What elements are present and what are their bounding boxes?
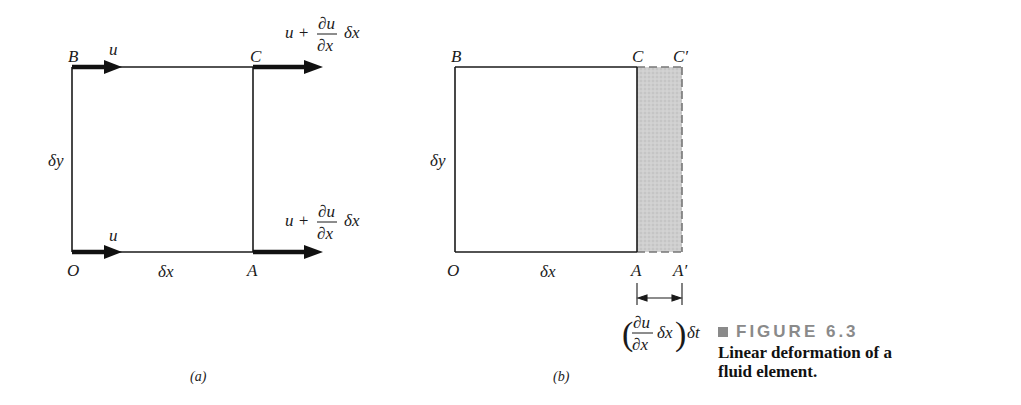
velocity-label-o: u bbox=[109, 226, 118, 245]
velocity-label-c: u + ∂u ∂x δx bbox=[285, 14, 360, 55]
panel-b: B C C′ O A A′ δx δy ( ∂u ∂x δx ) δt (b) bbox=[430, 47, 701, 385]
svg-text:∂u: ∂u bbox=[633, 313, 650, 332]
svg-text:δx: δx bbox=[344, 211, 360, 230]
panel-b-sublabel: (b) bbox=[553, 369, 570, 385]
velocity-arrow-a bbox=[253, 245, 323, 259]
velocity-label-a: u + ∂u ∂x δx bbox=[285, 202, 360, 243]
corner-label-a-prime: A′ bbox=[672, 261, 687, 280]
svg-text:δt: δt bbox=[687, 323, 701, 342]
dy-label-a: δy bbox=[48, 151, 64, 170]
figure-number: FIGURE 6.3 bbox=[736, 323, 859, 341]
corner-label-c: C bbox=[250, 47, 262, 66]
dy-label-b: δy bbox=[430, 151, 446, 170]
velocity-arrow-o bbox=[72, 245, 122, 259]
svg-text:δx: δx bbox=[344, 23, 360, 42]
fluid-element-box-a bbox=[72, 67, 253, 252]
velocity-label-b: u bbox=[109, 40, 118, 59]
deformation-shaded-region bbox=[637, 67, 682, 252]
corner-label-o-panel-b: O bbox=[447, 261, 459, 280]
stretch-label: ( ∂u ∂x δx ) δt bbox=[622, 313, 701, 354]
velocity-arrow-c bbox=[253, 60, 323, 74]
svg-text:u +: u + bbox=[285, 23, 309, 42]
velocity-arrow-b bbox=[72, 60, 122, 74]
corner-label-c-prime: C′ bbox=[673, 47, 688, 66]
svg-text:∂x: ∂x bbox=[317, 36, 333, 55]
svg-text:u +: u + bbox=[285, 211, 309, 230]
fluid-element-box-b bbox=[455, 67, 637, 252]
svg-text:∂u: ∂u bbox=[318, 202, 335, 221]
panel-a: B C O A δx δy u u u + ∂u ∂x δx u + ∂u ∂x… bbox=[48, 14, 360, 385]
corner-label-c-panel-b: C bbox=[632, 47, 644, 66]
corner-label-b-panel-b: B bbox=[451, 47, 462, 66]
corner-label-a-panel-b: A bbox=[630, 261, 642, 280]
svg-text:∂u: ∂u bbox=[318, 14, 335, 33]
dx-label-a: δx bbox=[158, 262, 174, 281]
figure-caption: FIGURE 6.3 Linear deformation of a fluid… bbox=[718, 323, 1018, 381]
figure-square-icon bbox=[718, 327, 728, 337]
svg-text:∂x: ∂x bbox=[632, 335, 648, 354]
svg-text:δx: δx bbox=[657, 323, 673, 342]
corner-label-b: B bbox=[68, 47, 79, 66]
svg-text:∂x: ∂x bbox=[317, 224, 333, 243]
dx-label-b: δx bbox=[540, 262, 556, 281]
corner-label-o: O bbox=[67, 261, 79, 280]
panel-a-sublabel: (a) bbox=[190, 369, 207, 385]
svg-text:): ) bbox=[675, 315, 686, 353]
stretch-dimension-arrow bbox=[637, 283, 682, 305]
corner-label-a: A bbox=[246, 261, 258, 280]
figure-label: FIGURE 6.3 bbox=[718, 323, 1018, 341]
figure-caption-text: Linear deformation of a fluid element. bbox=[718, 343, 893, 381]
